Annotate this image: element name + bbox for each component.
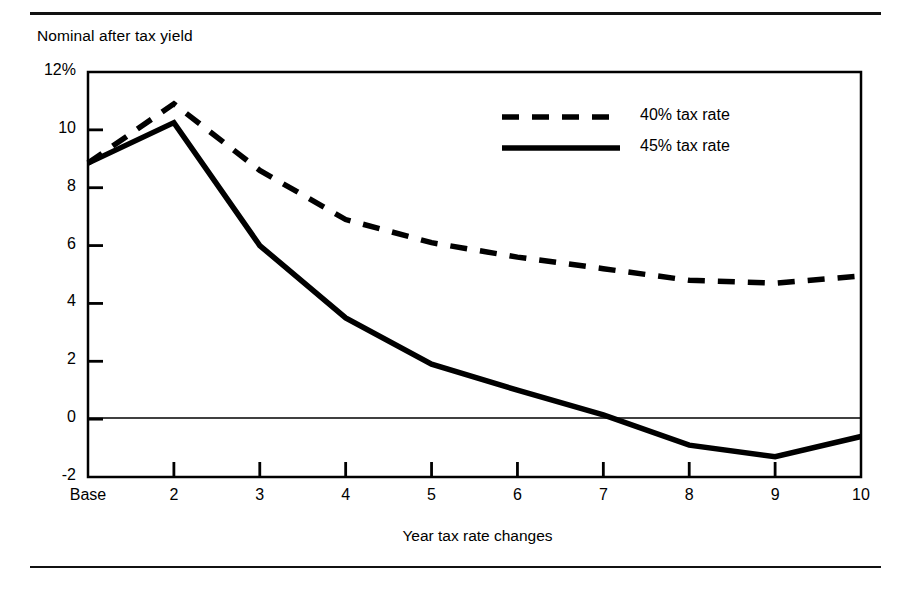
legend-item-label: 45% tax rate (640, 137, 730, 155)
series-line-45-percent (88, 123, 861, 457)
x-tick-label: 10 (811, 486, 911, 504)
y-tick-marks (88, 130, 103, 419)
y-tick-label: 8 (8, 177, 76, 195)
x-tick-marks (174, 462, 775, 477)
y-tick-label: 10 (8, 119, 76, 137)
series-line-40-percent (88, 104, 861, 283)
x-axis-title: Year tax rate changes (0, 527, 911, 545)
y-tick-label: 2 (8, 350, 76, 368)
plot-frame (88, 72, 861, 477)
y-tick-label: 4 (8, 292, 76, 310)
chart-figure: Nominal after tax yield 12%1086420-2 Bas… (0, 0, 911, 591)
y-tick-label: 12% (8, 61, 76, 79)
x-axis-title-text: Year tax rate changes (402, 527, 552, 544)
y-tick-label: 6 (8, 235, 76, 253)
legend-item-label: 40% tax rate (640, 106, 730, 124)
y-tick-label: -2 (8, 466, 76, 484)
y-tick-label: 0 (8, 408, 76, 426)
